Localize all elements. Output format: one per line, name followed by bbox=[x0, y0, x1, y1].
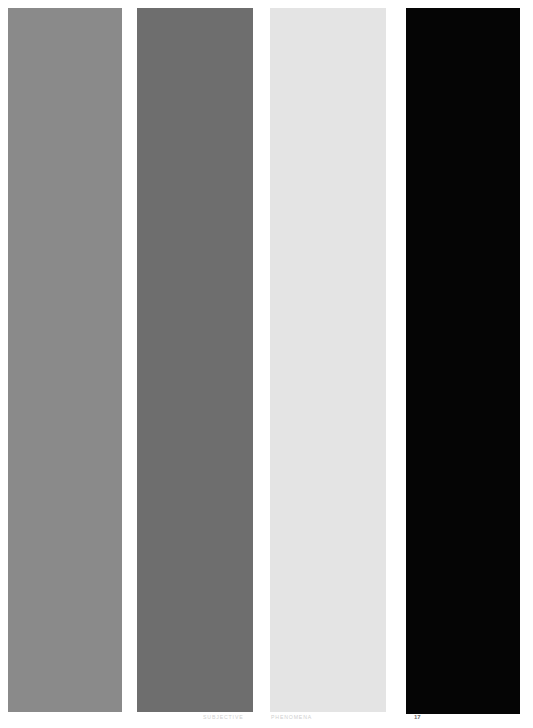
color-bar-medium-gray bbox=[8, 8, 122, 712]
page-canvas: SUBJECTIVE PHENOMENA 17 bbox=[0, 0, 533, 728]
page-number: 17 bbox=[414, 713, 421, 721]
color-bar-black bbox=[406, 8, 520, 714]
caption-row: SUBJECTIVE PHENOMENA 17 bbox=[0, 713, 533, 728]
color-bar-light-gray bbox=[270, 8, 386, 712]
color-bar-dark-gray bbox=[137, 8, 253, 712]
color-bar-grid bbox=[0, 0, 533, 728]
caption-subjective: SUBJECTIVE bbox=[203, 713, 244, 721]
caption-phenomena: PHENOMENA bbox=[271, 713, 312, 721]
